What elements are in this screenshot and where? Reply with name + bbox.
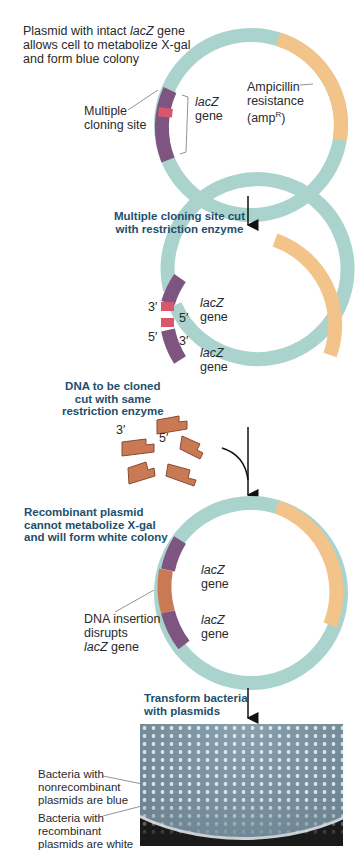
petri-dish-photo xyxy=(140,724,343,846)
end-label: 3′ xyxy=(179,334,188,348)
fragment-end-label: 3′ xyxy=(116,423,125,437)
end-label: 5′ xyxy=(148,330,157,344)
white-colony-label: Bacteria withrecombinantplasmids are whi… xyxy=(38,812,133,851)
insert-label: DNA insertiondisruptslacZ gene xyxy=(84,612,160,654)
lacz-bottom-label: lacZgene xyxy=(201,613,229,641)
step-recombinant: Recombinant plasmidcannot metabolize X-g… xyxy=(24,506,168,544)
mcs-label: Multiplecloning site xyxy=(84,104,147,132)
end-label: 5′ xyxy=(179,311,188,325)
step-cut-mcs: Multiple cloning site cutwith restrictio… xyxy=(114,210,245,235)
lacz-top-label: lacZgene xyxy=(201,563,229,591)
lacz-label: lacZgene xyxy=(195,95,223,123)
plasmid-cut xyxy=(161,179,348,360)
end-label: 3′ xyxy=(148,300,157,314)
lacz-top-label: lacZgene xyxy=(200,296,228,324)
amp-label: Ampicillinresistance(ampR) xyxy=(247,80,304,125)
blue-colony-label: Bacteria withnonrecombinantplasmids are … xyxy=(38,768,128,807)
intact-plasmid-caption: Plasmid with intact lacZ gene allows cel… xyxy=(23,24,190,66)
dna-fragments xyxy=(122,416,203,486)
step-transform: Transform bacteriawith plasmids xyxy=(144,692,248,717)
fragment-end-label: 5′ xyxy=(159,431,168,445)
step-dna-cut: DNA to be clonedcut with samerestriction… xyxy=(62,380,164,418)
lacz-bottom-label: lacZgene xyxy=(200,346,228,374)
